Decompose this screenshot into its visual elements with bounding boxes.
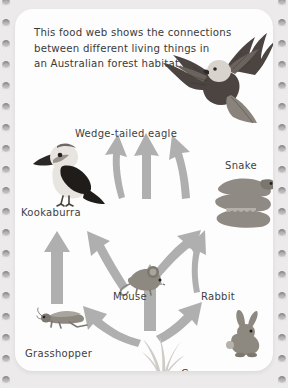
binding-hole: [278, 334, 286, 343]
binding-hole: [2, 40, 10, 49]
binding-hole: [278, 187, 286, 196]
binding-hole: [278, 208, 286, 217]
binding-hole: [278, 61, 286, 70]
binding-hole: [2, 166, 10, 175]
label-grass: Grass: [181, 368, 211, 372]
binding-hole: [278, 19, 286, 28]
binding-hole: [2, 334, 10, 343]
binding-hole: [278, 376, 286, 385]
binding-hole: [2, 313, 10, 322]
binding-hole: [278, 124, 286, 133]
binding-hole: [2, 376, 10, 385]
binding-hole: [278, 313, 286, 322]
binding-hole: [278, 0, 286, 7]
binding-hole: [278, 355, 286, 364]
worksheet-card: This food web shows the connections betw…: [15, 9, 273, 371]
arrow-kookaburra-to-eagle: [105, 134, 127, 199]
binding-hole: [278, 292, 286, 301]
label-snake: Snake: [225, 160, 257, 171]
binding-hole: [278, 271, 286, 280]
binding-hole: [278, 250, 286, 259]
grasshopper-illustration: [37, 305, 89, 331]
spiral-binding-right: [274, 0, 288, 388]
binding-hole: [2, 292, 10, 301]
snake-illustration: [210, 172, 273, 232]
label-wedge-tailed-eagle: Wedge-tailed eagle: [75, 128, 177, 139]
arrow-snake-to-eagle: [169, 135, 190, 199]
binding-hole: [2, 208, 10, 217]
label-kookaburra: Kookaburra: [21, 207, 81, 218]
binding-hole: [2, 103, 10, 112]
label-grasshopper: Grasshopper: [25, 348, 92, 359]
binding-hole: [278, 229, 286, 238]
grass-illustration: [133, 333, 191, 371]
binding-hole: [278, 166, 286, 175]
binding-hole: [2, 61, 10, 70]
binding-hole: [2, 124, 10, 133]
binding-hole: [2, 187, 10, 196]
binding-hole: [2, 0, 10, 7]
rabbit-illustration: [224, 309, 270, 357]
binding-hole: [2, 19, 10, 28]
binding-hole: [2, 355, 10, 364]
binding-hole: [2, 82, 10, 91]
binding-hole: [278, 82, 286, 91]
binding-hole: [2, 229, 10, 238]
binding-hole: [278, 103, 286, 112]
kookaburra-illustration: [31, 136, 105, 206]
label-rabbit: Rabbit: [201, 291, 235, 302]
binding-hole: [2, 271, 10, 280]
arrow-grasshopper-to-kookaburra: [44, 231, 70, 304]
binding-hole: [278, 40, 286, 49]
wedge-tailed-eagle-illustration: [163, 31, 273, 131]
binding-hole: [2, 250, 10, 259]
label-mouse: Mouse: [113, 291, 147, 302]
arrow-mouse-to-eagle: [134, 133, 159, 199]
binding-hole: [278, 145, 286, 154]
spiral-binding-left: [0, 0, 14, 388]
binding-hole: [2, 145, 10, 154]
